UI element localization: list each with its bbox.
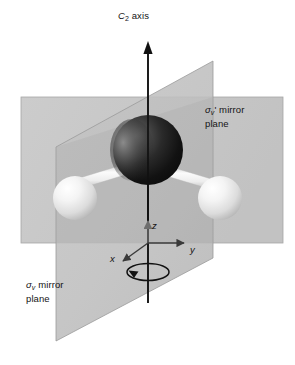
axis-y-label: y — [190, 244, 195, 255]
oxygen-atom-group — [110, 115, 183, 185]
hydrogen-atom-left — [53, 176, 97, 220]
c2-axis-label-rest: axis — [129, 10, 149, 21]
sigma-v-prime-line2: plane — [205, 118, 229, 129]
sigma-v-line2: plane — [26, 293, 50, 304]
sigma-v-prime-line1: mirror — [216, 104, 244, 115]
c2-axis-symbol: C — [118, 10, 125, 21]
c2-axis-arrowhead — [143, 41, 152, 54]
sigma-v-line1: mirror — [35, 279, 63, 290]
symmetry-diagram — [0, 0, 295, 365]
sigma-v-prime-plane-label: σv' mirrorplane — [205, 104, 245, 129]
axis-x-label: x — [110, 253, 115, 264]
c2-axis-label: C2 axis — [118, 10, 149, 24]
axis-z-label: z — [152, 220, 157, 231]
figure-canvas: C2 axis σv' mirrorplane σv mirrorplane z… — [0, 0, 295, 365]
sigma-v-plane-label: σv mirrorplane — [26, 279, 64, 304]
hydrogen-atom-right — [198, 176, 242, 220]
